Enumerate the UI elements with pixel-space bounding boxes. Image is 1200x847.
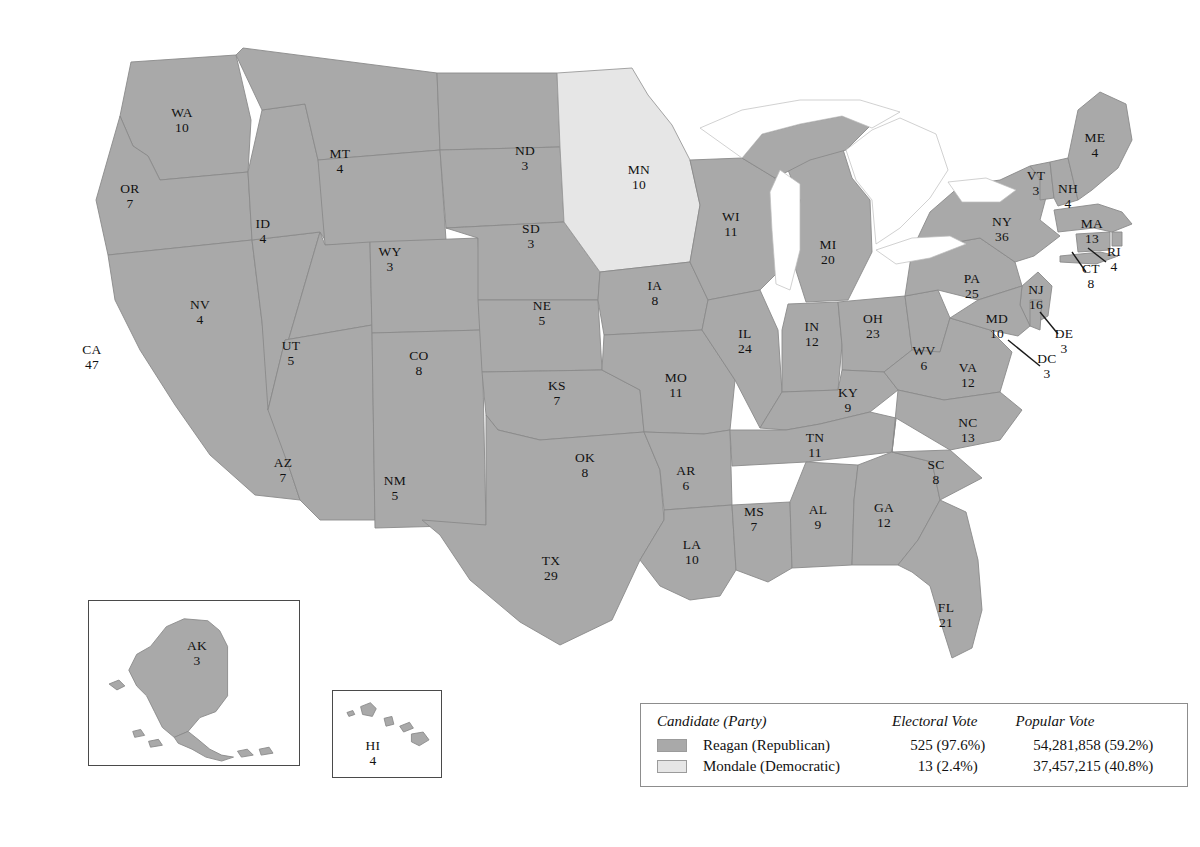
header-popular-vote: Popular Vote	[1010, 712, 1177, 735]
table-header-row: Candidate (Party) Electoral Vote Popular…	[651, 712, 1177, 735]
state-shape-AL[interactable]	[790, 462, 858, 568]
legend-candidate-name: Reagan (Republican)	[697, 735, 886, 756]
state-shape-IN[interactable]	[782, 302, 842, 392]
state-shape-MS[interactable]	[732, 502, 792, 582]
state-shape-NC[interactable]	[892, 390, 1022, 452]
state-shape-AK[interactable]	[129, 619, 228, 738]
state-shape-LI[interactable]	[1060, 252, 1118, 264]
results-table: Candidate (Party) Electoral Vote Popular…	[651, 712, 1177, 777]
legend-row: Reagan (Republican)525 (97.6%)54,281,858…	[651, 735, 1177, 756]
state-shape-MA[interactable]	[1054, 204, 1132, 232]
hawaii-map	[333, 691, 441, 777]
results-legend: Candidate (Party) Electoral Vote Popular…	[640, 703, 1188, 787]
state-shape-RI[interactable]	[1112, 232, 1122, 246]
state-shape-KS[interactable]	[478, 300, 602, 372]
alaska-map	[89, 601, 299, 765]
state-shape-NM[interactable]	[372, 330, 486, 528]
legend-popular-vote: 37,457,215 (40.8%)	[1010, 756, 1177, 777]
leader-line-de	[1040, 312, 1058, 334]
state-shape-CT[interactable]	[1076, 232, 1110, 252]
state-shape-CO[interactable]	[370, 238, 482, 333]
state-shape-ME[interactable]	[1068, 92, 1132, 200]
legend-popular-vote: 54,281,858 (59.2%)	[1010, 735, 1177, 756]
color-swatch-democratic	[657, 760, 687, 773]
alaska-peninsula	[174, 731, 233, 761]
electoral-map-figure: WA10OR7CA47NV4ID4MT4WY3UT5AZ7CO8NM5ND3SD…	[0, 0, 1200, 847]
legend-swatch-cell	[651, 756, 697, 777]
leader-line-dc	[1008, 340, 1040, 366]
state-shape-ND[interactable]	[437, 73, 560, 150]
legend-row: Mondale (Democratic)13 (2.4%)37,457,215 …	[651, 756, 1177, 777]
state-shape-IA[interactable]	[598, 262, 708, 335]
color-swatch-republican	[657, 739, 687, 752]
legend-candidate-name: Mondale (Democratic)	[697, 756, 886, 777]
hawaii-islands[interactable]	[347, 703, 429, 746]
legend-swatch-cell	[651, 735, 697, 756]
legend-electoral-vote: 13 (2.4%)	[886, 756, 1010, 777]
legend-electoral-vote: 525 (97.6%)	[886, 735, 1010, 756]
state-shape-DE[interactable]	[1030, 300, 1042, 330]
state-shape-MN[interactable]	[557, 68, 700, 272]
alaska-inset[interactable]: AK 3	[88, 600, 300, 766]
header-electoral-vote: Electoral Vote	[886, 712, 1010, 735]
state-shape-SD[interactable]	[440, 147, 564, 228]
hawaii-inset[interactable]: HI 4	[332, 690, 442, 778]
state-shape-OK[interactable]	[482, 370, 644, 440]
state-shape-WY[interactable]	[318, 150, 446, 245]
header-candidate: Candidate (Party)	[651, 712, 886, 735]
